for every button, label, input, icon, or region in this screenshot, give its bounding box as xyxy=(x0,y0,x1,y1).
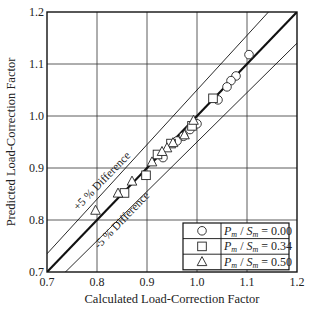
square-marker xyxy=(142,171,151,180)
scatter-chart: +5 % Difference-5 % Difference 0.70.80.9… xyxy=(0,0,310,309)
y-tick-label: 0.7 xyxy=(29,265,44,279)
y-tick-label: 1.2 xyxy=(29,5,44,19)
y-tick-label: 0.8 xyxy=(29,213,44,227)
triangle-marker xyxy=(91,205,101,214)
x-tick-label: 0.9 xyxy=(140,275,155,289)
y-tick-label: 0.9 xyxy=(29,161,44,175)
circle-marker xyxy=(245,50,254,59)
y-tick-label: 1.0 xyxy=(29,109,44,123)
square-marker xyxy=(209,94,218,103)
data-points xyxy=(91,50,254,214)
x-tick-label: 1.1 xyxy=(240,275,255,289)
legend-circle-icon xyxy=(198,227,207,236)
y-axis-label: Predicted Load-Correction Factor xyxy=(4,57,18,227)
legend-square-icon xyxy=(198,242,207,251)
plus-5-percent-label: +5 % Difference xyxy=(71,149,133,212)
plus-5-percent-line xyxy=(47,0,297,254)
x-axis-ticks: 0.70.80.91.01.11.2 xyxy=(40,275,305,289)
x-tick-label: 1.2 xyxy=(290,275,305,289)
x-tick-label: 0.8 xyxy=(90,275,105,289)
x-tick-label: 1.0 xyxy=(190,275,205,289)
circle-marker xyxy=(223,83,232,92)
legend: Pm / Sm = 0.00Pm / Sm = 0.34Pm / Sm = 0.… xyxy=(183,223,292,270)
x-axis-label: Calculated Load-Correction Factor xyxy=(85,292,261,306)
y-tick-label: 1.1 xyxy=(29,57,44,71)
y-axis-ticks: 0.70.80.91.01.11.2 xyxy=(29,5,44,279)
